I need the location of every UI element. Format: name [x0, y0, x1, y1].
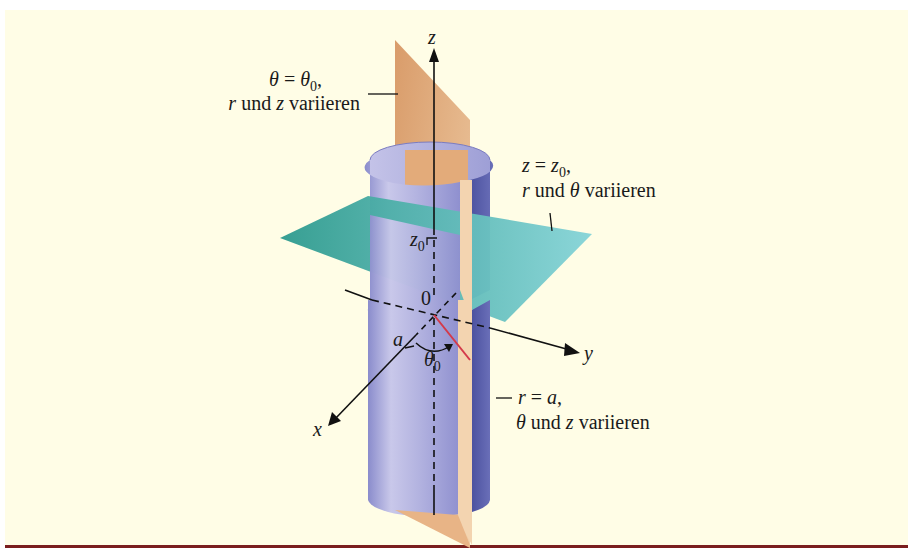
y-axis-label: y [582, 342, 593, 365]
cylinder-label-line1: r = a, [518, 386, 562, 408]
radius-label: a [393, 328, 403, 350]
cylindrical-coordinates-diagram: z y x 0 θ = θ0, r und z variieren z = z0… [0, 0, 913, 557]
z-axis-label: z [427, 26, 436, 48]
cylinder-lower [368, 300, 490, 545]
cylinder-label-line2: θ und z variieren [516, 411, 650, 433]
x-axis-label: x [312, 418, 322, 440]
half-plane-label-line2: r und z variieren [228, 92, 360, 114]
horizontal-plane-label-line2: r und θ variieren [522, 179, 656, 201]
bottom-rule [5, 545, 908, 548]
origin-label: 0 [421, 287, 431, 309]
